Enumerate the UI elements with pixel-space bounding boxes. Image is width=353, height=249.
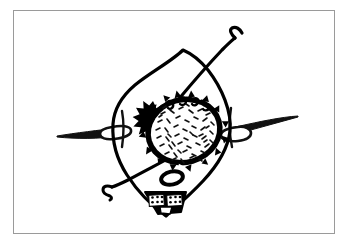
left-needle-shape <box>57 111 131 147</box>
screenshot-canvas <box>0 0 353 249</box>
stippled-panel-right <box>167 195 183 207</box>
white-notch <box>160 207 172 214</box>
right-needle-shape <box>221 108 298 147</box>
illustration-svg <box>0 0 353 249</box>
top-right-hooked-line <box>178 27 242 100</box>
small-oval-outline <box>160 169 184 186</box>
line-art-illustration <box>0 0 353 249</box>
dotted-trapezoid-cluster <box>145 192 186 214</box>
stippled-panel-left <box>149 195 165 207</box>
